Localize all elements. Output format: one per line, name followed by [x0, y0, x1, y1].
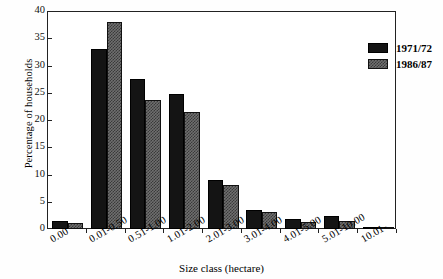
legend-entry: 1971/72 — [368, 42, 443, 55]
legend-label: 1986/87 — [396, 58, 432, 70]
y-axis-tick-mark — [47, 175, 52, 176]
legend-entry: 1986/87 — [368, 58, 443, 71]
x-axis-category-label: 5.01-10.00 — [320, 211, 367, 244]
x-axis-category-label: 1.01-2.00 — [165, 214, 207, 245]
x-axis-category-label: 0.01-0.50 — [87, 214, 129, 245]
legend-label: 1971/72 — [396, 42, 432, 54]
x-axis-category-label: 0.51-1.00 — [126, 214, 168, 245]
x-axis-category-label: 3.01-4.00 — [242, 214, 284, 245]
legend-swatch — [368, 59, 388, 69]
legend-swatch — [368, 43, 388, 53]
y-axis-tick-mark — [47, 38, 52, 39]
x-axis-category-label: 2.01-3.00 — [204, 214, 246, 245]
y-axis-tick-mark — [47, 202, 52, 203]
x-axis-category-label: 10.01- — [359, 221, 389, 245]
x-axis-title: Size class (hectare) — [47, 262, 396, 274]
x-axis-category-label: 4.01-5.00 — [281, 214, 323, 245]
chart-figure: 0510152025303540 Percentage of household… — [0, 0, 443, 279]
x-axis-category-label: 0.00 — [48, 225, 70, 244]
y-axis-tick-mark — [47, 93, 52, 94]
y-axis-tick-mark — [47, 66, 52, 67]
y-axis-tick-mark — [47, 147, 52, 148]
y-axis-tick-mark — [47, 120, 52, 121]
